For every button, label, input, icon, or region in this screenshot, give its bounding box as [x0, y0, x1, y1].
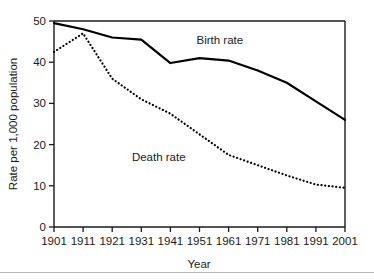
x-tick-label: 1981: [274, 235, 300, 247]
x-tick-label: 1991: [303, 235, 329, 247]
series-line-death-rate: [54, 33, 345, 188]
x-tick-label: 1961: [216, 235, 242, 247]
x-tick-label: 1901: [41, 235, 67, 247]
y-tick-label: 30: [33, 97, 46, 109]
chart-figure: 01020304050 1901191119211931194119511961…: [0, 0, 374, 280]
x-tick-label: 1921: [99, 235, 125, 247]
line-chart: 01020304050 1901191119211931194119511961…: [0, 0, 374, 280]
annotation-birth-rate: Birth rate: [197, 34, 244, 46]
y-tick-label: 40: [33, 56, 46, 68]
x-tick-label: 1911: [71, 235, 96, 247]
y-tick-label: 0: [40, 221, 46, 233]
x-tick-label: 1931: [129, 235, 155, 247]
annotation-death-rate: Death rate: [132, 151, 186, 163]
x-tick-label: 1951: [187, 235, 213, 247]
y-tick-label: 50: [33, 15, 46, 27]
data-series-layer: [54, 23, 345, 188]
y-axis-title: Rate per 1,000 population: [7, 58, 19, 190]
x-tick-label: 2001: [332, 235, 358, 247]
x-axis-ticks: [54, 227, 345, 232]
x-tick-label: 1971: [245, 235, 271, 247]
plot-frame: [54, 21, 345, 227]
series-annotations: Birth rateDeath rate: [132, 34, 243, 163]
y-tick-label: 10: [33, 180, 46, 192]
x-axis-title: Year: [187, 258, 210, 270]
x-tick-label: 1941: [158, 235, 184, 247]
y-tick-label: 20: [33, 139, 46, 151]
x-axis-tick-labels: 1901191119211931194119511961197119811991…: [41, 235, 358, 247]
footer-divider: [0, 272, 374, 273]
y-axis-tick-labels: 01020304050: [33, 15, 46, 233]
